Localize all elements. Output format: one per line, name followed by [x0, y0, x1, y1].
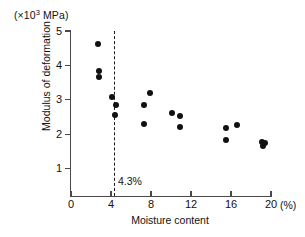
data-point [223, 125, 229, 131]
y-axis-tick [65, 134, 71, 135]
x-axis-tick [110, 191, 111, 197]
data-point [141, 121, 147, 127]
threshold-label: 4.3% [118, 175, 142, 187]
x-axis-tick [70, 191, 71, 197]
scatter-chart-figure: (×103 MPa) 12345 048121620 4.3% Modulus … [0, 0, 305, 237]
x-axis-tick-label: 12 [176, 199, 206, 210]
data-point [96, 68, 102, 74]
x-axis-tick [190, 191, 191, 197]
data-point [260, 143, 266, 149]
y-axis-tick [65, 30, 71, 31]
data-point [95, 41, 101, 47]
x-axis-tick [230, 191, 231, 197]
x-axis-unit-label: (%) [280, 199, 296, 211]
y-axis-title: Modulus of deformation [40, 6, 52, 146]
x-axis-tick [270, 191, 271, 197]
y-axis-tick [65, 65, 71, 66]
y-axis-tick [65, 99, 71, 100]
y-axis-tick-label: 1 [22, 163, 62, 174]
data-point [112, 112, 118, 118]
data-point [177, 124, 183, 130]
data-point [169, 110, 175, 116]
data-point [96, 74, 102, 80]
x-axis-tick-label: 16 [216, 199, 246, 210]
data-point [223, 137, 229, 143]
data-point [113, 102, 119, 108]
x-axis-tick-label: 0 [56, 199, 86, 210]
x-axis-tick [150, 191, 151, 197]
x-axis-line [70, 196, 271, 197]
x-axis-title: Moisture content [90, 214, 250, 226]
y-axis-line [70, 31, 71, 197]
data-point [141, 102, 147, 108]
y-axis-tick [65, 168, 71, 169]
x-axis-tick-label: 4 [96, 199, 126, 210]
x-axis-tick-label: 8 [136, 199, 166, 210]
data-point [147, 90, 153, 96]
data-point [234, 122, 240, 128]
data-point [177, 113, 183, 119]
